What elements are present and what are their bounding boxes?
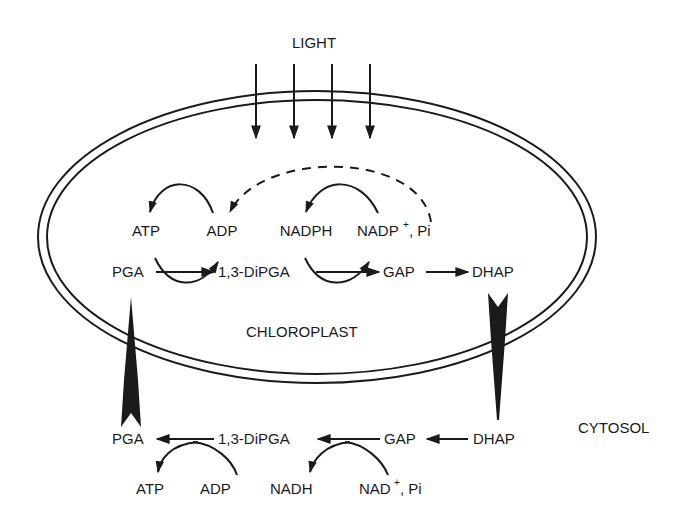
chloroplast-label: CHLOROPLAST [246, 323, 358, 340]
chloroplast-gap-label: GAP [383, 263, 415, 280]
chloroplast-cytosol-shuttle-diagram: LIGHT ATP ADP NADPH NADP + , Pi PGA 1,3-… [0, 0, 690, 521]
light-label: LIGHT [292, 34, 336, 51]
chloroplast-dipga-label: 1,3-DiPGA [218, 263, 290, 280]
cytosol-gap-label: GAP [384, 430, 416, 447]
cytosol-nad-pi-label: NAD + , Pi [359, 477, 422, 497]
nadh-nad-curve-cytosol [310, 442, 388, 475]
chloroplast-adp-label: ADP [207, 222, 238, 239]
svg-text:NADP: NADP [357, 222, 399, 239]
cytosol-pga-label: PGA [112, 430, 144, 447]
cytosol-nadh-label: NADH [270, 480, 313, 497]
svg-text:, Pi: , Pi [400, 480, 422, 497]
dhap-transporter-icon [488, 293, 508, 420]
chloroplast-nadph-label: NADPH [280, 222, 333, 239]
diagram-canvas: LIGHT ATP ADP NADPH NADP + , Pi PGA 1,3-… [0, 0, 690, 521]
chloroplast-atp-label: ATP [132, 222, 160, 239]
cytosol-dhap-label: DHAP [473, 430, 515, 447]
cytosol-adp-label: ADP [200, 480, 231, 497]
cytosol-atp-label: ATP [136, 480, 164, 497]
cytosol-dipga-label: 1,3-DiPGA [218, 430, 290, 447]
cytosol-label: CYTOSOL [578, 419, 649, 436]
chloroplast-pga-label: PGA [112, 263, 144, 280]
chloroplast-nadp-pi-label: NADP + , Pi [357, 219, 431, 239]
svg-text:NAD: NAD [359, 480, 391, 497]
svg-text:, Pi: , Pi [409, 222, 431, 239]
pga-transporter-icon [121, 297, 141, 427]
dashed-regeneration-arrow [230, 167, 431, 222]
chloroplast-dhap-label: DHAP [472, 263, 514, 280]
